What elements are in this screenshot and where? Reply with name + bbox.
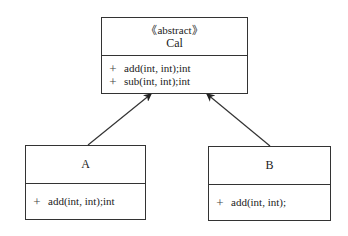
class-cal-operations: + add(int, int);int + sub(int, int);int <box>102 56 247 93</box>
class-b-header: B <box>209 147 330 185</box>
operation-signature: sub(int, int);int <box>124 75 190 88</box>
operation-row: + add(int, int);int <box>26 195 145 208</box>
class-a-header: A <box>26 146 145 184</box>
class-cal-header: 《abstract》 Cal <box>102 18 247 56</box>
operation-signature: add(int, int);int <box>48 195 115 208</box>
operation-row: + add(int, int); <box>209 196 330 209</box>
class-cal[interactable]: 《abstract》 Cal + add(int, int);int + sub… <box>101 17 248 94</box>
operation-signature: add(int, int); <box>231 196 286 209</box>
class-name: A <box>81 158 90 171</box>
class-b-operations: + add(int, int); <box>209 185 330 220</box>
visibility-public-icon: + <box>102 62 124 75</box>
visibility-public-icon: + <box>209 196 231 209</box>
class-name: B <box>265 159 273 172</box>
class-a[interactable]: A + add(int, int);int <box>25 145 146 220</box>
class-b[interactable]: B + add(int, int); <box>208 146 331 221</box>
arrow-b-to-cal <box>207 94 270 146</box>
class-name: Cal <box>166 37 183 50</box>
operation-row: + add(int, int);int <box>102 62 247 75</box>
stereotype-label: 《abstract》 <box>146 24 202 37</box>
visibility-public-icon: + <box>26 195 48 208</box>
visibility-public-icon: + <box>102 75 124 88</box>
arrow-a-to-cal <box>88 94 151 145</box>
class-a-operations: + add(int, int);int <box>26 184 145 219</box>
operation-row: + sub(int, int);int <box>102 75 247 88</box>
operation-signature: add(int, int);int <box>124 62 191 75</box>
